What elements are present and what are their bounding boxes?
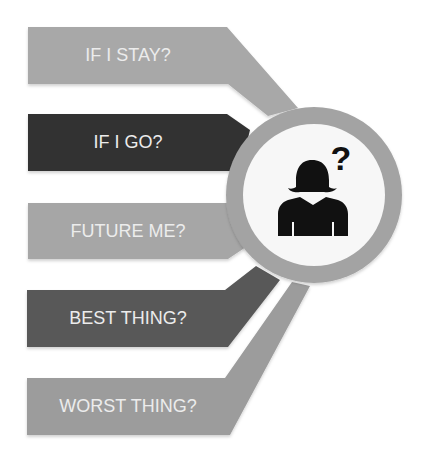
- center-badge: ?: [226, 107, 402, 283]
- label-if-i-stay: IF I STAY?: [28, 27, 228, 83]
- inner-circle: [243, 124, 385, 266]
- label-future-me: FUTURE ME?: [28, 203, 228, 259]
- label-worst-thing: WORST THING?: [28, 378, 228, 434]
- label-if-i-go: IF I GO?: [28, 114, 228, 170]
- label-best-thing: BEST THING?: [28, 290, 228, 346]
- question-mark-icon: ?: [331, 139, 352, 177]
